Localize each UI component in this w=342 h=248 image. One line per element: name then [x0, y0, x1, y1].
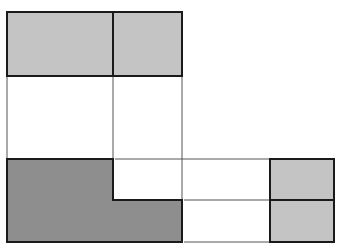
top-view [7, 12, 182, 76]
orthographic-projection-diagram [0, 0, 342, 248]
top-view-cell [113, 12, 182, 76]
side-view-cell [270, 200, 334, 242]
side-view-cell [270, 159, 334, 200]
side-view [270, 159, 334, 242]
front-view-l-shape [7, 159, 182, 242]
front-view [7, 159, 182, 242]
top-view-cell [7, 12, 113, 76]
